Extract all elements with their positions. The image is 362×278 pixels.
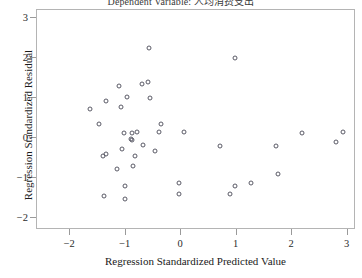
data-point — [227, 192, 232, 197]
data-point — [129, 138, 134, 143]
x-axis-tick-label: −2 — [56, 238, 82, 249]
data-point — [273, 143, 278, 148]
x-axis-tick-label: 0 — [167, 238, 193, 249]
data-point — [125, 95, 130, 100]
data-point — [88, 106, 93, 111]
data-point — [156, 130, 161, 135]
data-points-layer — [37, 10, 354, 228]
x-axis-tick-label: −1 — [112, 238, 138, 249]
data-point — [129, 131, 134, 136]
data-point — [341, 130, 346, 135]
data-point — [135, 130, 140, 135]
data-point — [182, 130, 187, 135]
data-point — [104, 152, 109, 157]
x-axis-tick — [69, 229, 70, 235]
data-point — [233, 55, 238, 60]
x-axis-tick — [180, 229, 181, 235]
data-point — [233, 183, 238, 188]
data-point — [104, 99, 109, 104]
data-point — [121, 131, 126, 136]
data-point — [334, 140, 339, 145]
data-point — [141, 142, 146, 147]
data-point — [177, 192, 182, 197]
data-point — [102, 194, 107, 199]
data-point — [218, 143, 223, 148]
chart-title: Dependent Variable: 人均消费支出 — [0, 0, 362, 8]
x-axis-tick-label: 1 — [223, 238, 249, 249]
data-point — [133, 153, 138, 158]
data-point — [275, 172, 280, 177]
data-point — [147, 45, 152, 50]
data-point — [122, 197, 127, 202]
x-axis-title: Regression Standardized Predicted Value — [36, 255, 355, 267]
data-point — [96, 121, 101, 126]
scatter-plot-figure: Dependent Variable: 人均消费支出 −2−10123 −2−1… — [0, 0, 362, 278]
y-axis-title: Regression Standardized Residual — [22, 10, 34, 240]
data-point — [299, 131, 304, 136]
data-point — [148, 96, 153, 101]
x-axis-tick — [236, 229, 237, 235]
data-point — [248, 180, 253, 185]
x-axis-tick — [291, 229, 292, 235]
data-point — [140, 82, 145, 87]
x-axis-tick — [347, 229, 348, 235]
data-point — [158, 121, 163, 126]
x-axis-tick-label: 3 — [334, 238, 360, 249]
data-point — [119, 104, 124, 109]
data-point — [152, 149, 157, 154]
x-axis-tick-label: 2 — [278, 238, 304, 249]
x-axis-tick — [125, 229, 126, 235]
data-point — [131, 164, 136, 169]
data-point — [122, 183, 127, 188]
data-point — [120, 146, 125, 151]
data-point — [146, 79, 151, 84]
plot-area — [36, 9, 355, 229]
data-point — [117, 83, 122, 88]
data-point — [177, 180, 182, 185]
data-point — [114, 167, 119, 172]
